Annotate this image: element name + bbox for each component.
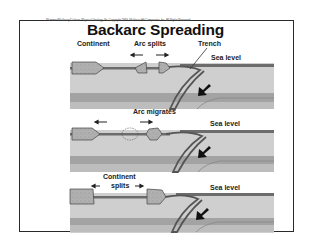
- arrow-right-icon: [140, 121, 152, 124]
- oceanic-plate: [180, 130, 274, 133]
- diagram-canvas: [0, 0, 311, 244]
- arrow-right-icon: [156, 54, 168, 57]
- asthenosphere-band: [70, 93, 274, 102]
- panel-3: [70, 185, 274, 234]
- arrow-left-icon: [131, 54, 143, 57]
- continent-fragment-left: [70, 189, 94, 204]
- panel-2: [70, 121, 274, 173]
- panel-1: [70, 48, 274, 109]
- oceanic-plate: [176, 193, 274, 196]
- arrow-left-icon: [95, 121, 107, 124]
- arrow-right-icon: [135, 185, 143, 188]
- arrow-left-icon: [92, 185, 100, 188]
- asthenosphere-band: [70, 218, 274, 225]
- asthenosphere-band: [70, 156, 274, 164]
- lower-band: [70, 164, 274, 172]
